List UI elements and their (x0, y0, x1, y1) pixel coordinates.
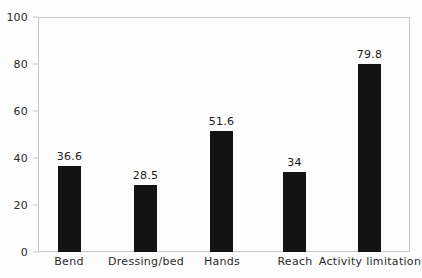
y-tick-label-60: 60 (14, 105, 28, 118)
y-tick-label-0: 0 (21, 246, 28, 259)
bar-bend[interactable] (58, 166, 81, 252)
x-tick-label-bend: Bend (54, 255, 83, 268)
x-axis: Bend Dressing/bed Hands Reach Activity l… (38, 255, 410, 275)
y-tick-label-40: 40 (14, 152, 28, 165)
bar-activity-limitation[interactable] (358, 64, 381, 252)
x-tick-label-reach: Reach (277, 255, 312, 268)
bar-hands[interactable] (210, 131, 233, 252)
y-tick-label-20: 20 (14, 199, 28, 212)
bars-layer: 36.6 28.5 51.6 34 79.8 (38, 17, 410, 252)
bar-dressing-bed[interactable] (134, 185, 157, 252)
bar-reach[interactable] (283, 172, 306, 252)
bar-value-label-reach: 34 (287, 156, 301, 169)
y-axis: 0 20 40 60 80 100 (0, 0, 34, 278)
x-tick-label-hands: Hands (204, 255, 240, 268)
bar-value-label-hands: 51.6 (209, 115, 234, 128)
bar-value-label-dressing-bed: 28.5 (133, 169, 158, 182)
bar-chart-figure: 0 20 40 60 80 100 36.6 28.5 51.6 34 (0, 0, 422, 278)
bar-value-label-bend: 36.6 (57, 150, 82, 163)
y-tick-label-80: 80 (14, 58, 28, 71)
x-tick-label-activity-limitation: Activity limitation (319, 255, 421, 268)
y-tick-label-100: 100 (6, 11, 28, 24)
bar-value-label-activity-limitation: 79.8 (357, 48, 382, 61)
x-tick-label-dressing-bed: Dressing/bed (108, 255, 184, 268)
